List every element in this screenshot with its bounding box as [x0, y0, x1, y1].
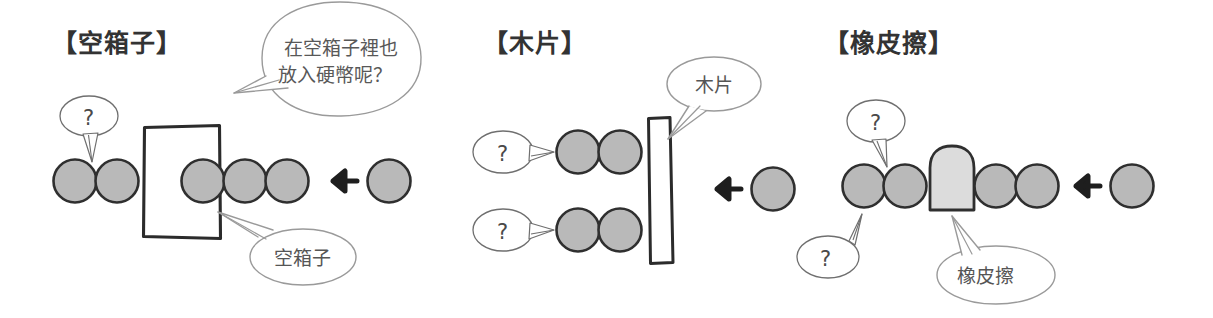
incoming-coin-p3 — [1111, 165, 1154, 208]
obstacle-eraser — [930, 146, 974, 210]
question-mark-p3-1: ? — [870, 109, 881, 137]
question-mark-p1-1: ? — [83, 104, 94, 132]
obstacle-label-wood-chip: 木片 — [695, 73, 733, 99]
coin-row-p2-bottom — [557, 209, 642, 252]
obstacle-label-empty-box: 空箱子 — [274, 246, 331, 272]
coin-stack-p1-right — [182, 160, 309, 203]
question-mark-p2-2: ? — [497, 218, 508, 246]
label-bubble-eraser — [937, 216, 1055, 304]
obstacle-label-eraser: 橡皮擦 — [957, 264, 1014, 290]
coin-stack-p3-right — [975, 165, 1059, 208]
obstacle-wood-chip — [649, 118, 674, 264]
question-bubble-p2-2 — [473, 209, 554, 251]
coin-stack-p1-left — [54, 160, 139, 203]
coin-stack-p3-left — [843, 165, 927, 208]
panel-title-wood-chip: 【木片】 — [483, 31, 587, 56]
arrow-p2 — [717, 179, 741, 199]
arrow-p1 — [333, 171, 357, 191]
panel-title-eraser: 【橡皮擦】 — [824, 31, 954, 56]
speech-line-2: 放入硬幣呢？ — [278, 63, 392, 89]
incoming-coin-p1 — [368, 160, 411, 203]
diagram-canvas: 【空箱子】 【木片】 【橡皮擦】 在空箱子裡也 放入硬幣呢？ ? ? ? ? ?… — [0, 0, 1213, 318]
panel-title-empty-box: 【空箱子】 — [52, 31, 182, 56]
speech-line-1: 在空箱子裡也 — [284, 36, 398, 62]
coin-row-p2-top — [557, 131, 642, 174]
question-mark-p2-1: ? — [497, 140, 508, 168]
question-bubble-p2-1 — [473, 131, 554, 173]
arrow-p3 — [1076, 176, 1100, 196]
question-mark-p3-2: ? — [820, 245, 831, 273]
incoming-coin-p2 — [752, 168, 795, 211]
